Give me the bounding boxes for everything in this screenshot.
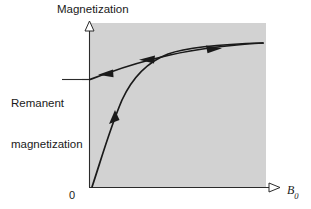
remanent-label-line-1: Remanent (11, 97, 83, 111)
magnetization-figure: Magnetization Remanent magnetization 0 B… (0, 0, 311, 209)
plot-area-background (89, 23, 266, 187)
remanent-label-line-2: magnetization (11, 138, 83, 152)
x-axis-subscript: 0 (294, 191, 298, 201)
y-axis-title: Magnetization (57, 3, 129, 17)
x-axis-title: B0 (287, 183, 299, 199)
remanent-magnetization-label: Remanent magnetization (11, 70, 83, 179)
origin-label: 0 (69, 189, 75, 202)
x-axis-arrowhead-icon (269, 183, 280, 192)
